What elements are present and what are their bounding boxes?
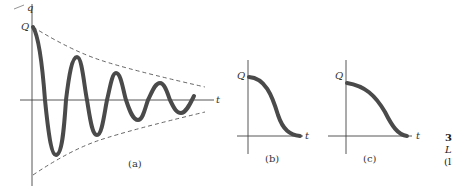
graph-a: q Q t (a)	[14, 2, 221, 186]
caption-b: (b)	[265, 153, 279, 164]
t-axis-label-a: t	[216, 94, 221, 105]
t-axis-label-c: t	[416, 130, 421, 141]
axis-tick-mark	[14, 5, 24, 9]
side-caption-line-3: (l	[444, 156, 451, 167]
caption-c: (c)	[363, 153, 377, 164]
damped-oscillation-curve	[33, 27, 194, 155]
q-axis-label: q	[27, 2, 33, 13]
over-damping-curve	[347, 83, 407, 136]
side-caption-line-1: 3	[445, 132, 452, 143]
caption-a: (a)	[128, 158, 142, 169]
t-axis-label-b: t	[305, 130, 310, 141]
lower-envelope	[33, 112, 205, 175]
q-max-label-a: Q	[21, 21, 29, 32]
graph-b: Q t (b)	[237, 60, 310, 164]
graph-c: Q t (c)	[328, 60, 421, 164]
side-caption: 3 L (l	[444, 132, 452, 167]
side-caption-line-2: L	[444, 144, 452, 155]
q-max-label-b: Q	[237, 70, 245, 81]
figure-canvas: q Q t (a) Q t (b) Q t (c) 3 L (l	[0, 0, 456, 193]
q-max-label-c: Q	[335, 70, 343, 81]
critical-damping-curve	[249, 77, 300, 136]
